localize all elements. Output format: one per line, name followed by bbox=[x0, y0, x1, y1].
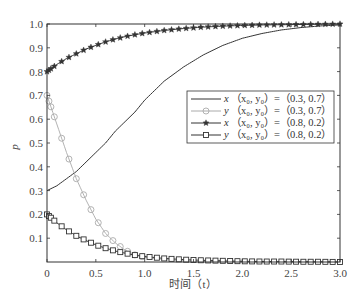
legend-var: y bbox=[223, 129, 229, 140]
y-tick-label: 1.0 bbox=[29, 18, 43, 30]
y-tick-label: 0.5 bbox=[29, 137, 43, 149]
line-chart: 00.51.01.52.02.53.00.10.20.30.40.50.60.7… bbox=[0, 0, 361, 305]
square-marker bbox=[184, 257, 189, 262]
legend-label: （x₀, y₀）=（0.8, 0.2） bbox=[231, 129, 332, 140]
star-marker bbox=[147, 29, 153, 35]
y-tick-label: 0.1 bbox=[29, 232, 43, 244]
x-tick-label: 2.5 bbox=[284, 267, 298, 279]
square-marker bbox=[257, 259, 262, 264]
square-marker bbox=[147, 255, 152, 260]
star-marker bbox=[132, 32, 138, 38]
square-marker bbox=[154, 255, 159, 260]
square-marker bbox=[250, 259, 255, 264]
legend-var: y bbox=[223, 105, 229, 116]
square-marker bbox=[110, 248, 115, 253]
square-marker bbox=[88, 240, 93, 245]
star-marker bbox=[161, 27, 167, 33]
x-tick-label: 1.0 bbox=[138, 267, 152, 279]
star-marker bbox=[176, 26, 182, 32]
y-tick-label: 0.6 bbox=[29, 113, 43, 125]
y-tick-label: 0.4 bbox=[29, 161, 43, 173]
legend-label: （x₀, y₀）=（0.3, 0.7） bbox=[231, 93, 332, 104]
star-marker bbox=[234, 22, 240, 28]
star-marker bbox=[88, 44, 94, 50]
y-tick-label: 0.8 bbox=[29, 66, 43, 78]
square-marker bbox=[220, 258, 225, 263]
y-tick-label: 0.3 bbox=[29, 185, 43, 197]
x-tick-label: 0.5 bbox=[89, 267, 103, 279]
star-marker bbox=[256, 22, 262, 28]
axis-ticks: 00.51.01.52.02.53.00.10.20.30.40.50.60.7… bbox=[29, 18, 347, 279]
star-marker bbox=[81, 47, 87, 53]
square-marker bbox=[59, 224, 64, 229]
square-marker bbox=[118, 250, 123, 255]
star-marker bbox=[117, 35, 123, 41]
star-marker bbox=[205, 24, 211, 30]
square-marker bbox=[162, 256, 167, 261]
x-tick-label: 3.0 bbox=[333, 267, 347, 279]
legend-var: x bbox=[223, 93, 229, 104]
y-tick-label: 0.7 bbox=[29, 89, 43, 101]
star-marker bbox=[73, 51, 79, 57]
square-marker bbox=[103, 246, 108, 251]
star-marker bbox=[249, 22, 255, 28]
legend-var: x bbox=[223, 117, 229, 128]
square-marker bbox=[81, 237, 86, 242]
star-marker bbox=[139, 30, 145, 36]
x-tick-label: 0 bbox=[44, 267, 50, 279]
star-marker bbox=[154, 28, 160, 34]
square-marker bbox=[169, 256, 174, 261]
star-marker bbox=[198, 24, 204, 30]
star-marker bbox=[125, 33, 131, 39]
star-marker bbox=[103, 39, 109, 45]
square-marker bbox=[125, 251, 130, 256]
series-2 bbox=[44, 21, 343, 74]
square-marker bbox=[204, 133, 209, 138]
star-marker bbox=[168, 27, 174, 33]
y-axis-label: p bbox=[8, 144, 20, 151]
series-3 bbox=[45, 212, 343, 265]
square-marker bbox=[52, 218, 57, 223]
x-axis-label: 时间（t） bbox=[169, 278, 216, 290]
square-marker bbox=[228, 258, 233, 263]
star-marker bbox=[183, 25, 189, 31]
star-marker bbox=[95, 41, 101, 47]
square-marker bbox=[235, 259, 240, 264]
star-marker bbox=[264, 22, 270, 28]
square-marker bbox=[242, 259, 247, 264]
legend-label: （x₀, y₀）=（0.8, 0.2） bbox=[231, 117, 332, 128]
star-marker bbox=[66, 54, 72, 60]
square-marker bbox=[176, 257, 181, 262]
y-tick-label: 0.9 bbox=[29, 42, 43, 54]
square-marker bbox=[66, 229, 71, 234]
square-marker bbox=[140, 254, 145, 259]
square-marker bbox=[96, 243, 101, 248]
legend-label: （x₀, y₀）=（0.3, 0.7） bbox=[231, 105, 332, 116]
square-marker bbox=[132, 253, 137, 258]
x-tick-label: 2.0 bbox=[235, 267, 249, 279]
square-marker bbox=[74, 233, 79, 238]
series-line bbox=[47, 214, 340, 262]
legend: x（x₀, y₀）=（0.3, 0.7）y（x₀, y₀）=（0.3, 0.7）… bbox=[187, 91, 334, 143]
y-tick-label: 0.2 bbox=[29, 208, 43, 220]
star-marker bbox=[110, 37, 116, 43]
